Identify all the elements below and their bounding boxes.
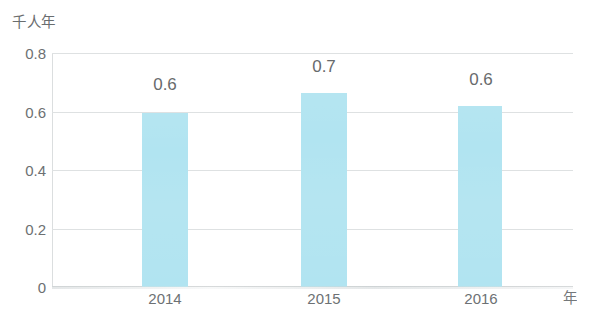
bar-2014 bbox=[142, 113, 188, 287]
data-label-2016: 0.6 bbox=[469, 70, 493, 90]
data-label-2015: 0.7 bbox=[312, 57, 336, 77]
y-tick-label: 0.2 bbox=[2, 220, 46, 237]
bar-2015 bbox=[301, 93, 347, 288]
bar-2016 bbox=[458, 106, 502, 287]
x-tick-label-2016: 2016 bbox=[464, 290, 497, 307]
y-axis-unit-label: 千人年 bbox=[12, 10, 56, 31]
y-axis-tick-labels: 0.8 0.6 0.4 0.2 0 bbox=[0, 53, 46, 287]
data-label-2014: 0.6 bbox=[153, 75, 177, 95]
y-tick-label: 0.8 bbox=[2, 45, 46, 62]
gridline-0.8 bbox=[52, 53, 573, 54]
bar-chart: 千人年 0.8 0.6 0.4 0.2 0 0.6 0.7 0.6 2014 2… bbox=[0, 0, 593, 312]
plot-area bbox=[52, 53, 573, 287]
y-tick-label: 0 bbox=[2, 279, 46, 296]
y-tick-label: 0.6 bbox=[2, 103, 46, 120]
bar-shading bbox=[458, 106, 502, 287]
x-tick-label-2014: 2014 bbox=[148, 290, 181, 307]
bar-shading bbox=[142, 113, 188, 287]
bar-shading bbox=[301, 93, 347, 288]
y-tick-label: 0.4 bbox=[2, 162, 46, 179]
x-axis-unit-label: 年 bbox=[563, 286, 577, 307]
x-tick-label-2015: 2015 bbox=[307, 290, 340, 307]
